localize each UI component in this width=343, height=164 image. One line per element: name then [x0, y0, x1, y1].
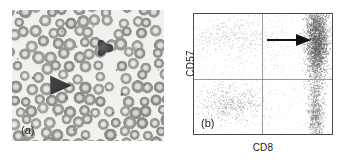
panel-a-blood-smear-micrograph: (a)	[12, 10, 164, 141]
x-axis-label: CD8	[193, 142, 333, 153]
figure-container: (a) (b) CD57 CD8	[0, 0, 343, 164]
quadrant-vertical-gate-line	[262, 14, 263, 134]
panel-a-label: (a)	[21, 124, 34, 136]
quadrant-horizontal-gate-line	[194, 79, 332, 80]
scatter-plot-frame: (b)	[193, 13, 333, 135]
panel-b-label: (b)	[201, 117, 214, 129]
annotation-arrow-icon	[266, 33, 312, 47]
y-axis-label: CD57	[185, 37, 196, 91]
blood-smear-image	[12, 10, 164, 141]
scatter-dot-cloud	[194, 14, 332, 134]
panel-b-flow-cytometry-dot-plot: (b) CD57 CD8	[172, 0, 343, 164]
